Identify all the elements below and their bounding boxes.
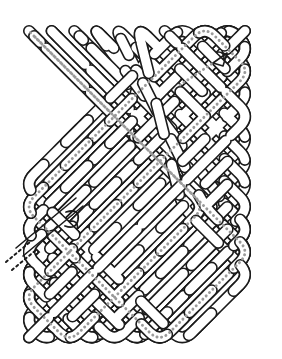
knot-figure (0, 0, 282, 359)
knot-canvas (0, 0, 282, 359)
